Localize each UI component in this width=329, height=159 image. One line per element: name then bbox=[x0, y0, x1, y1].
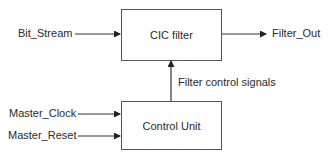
control-unit-label: Control Unit bbox=[142, 120, 200, 132]
cic-filter-label: CIC filter bbox=[150, 29, 193, 41]
master-reset-label: Master_Reset bbox=[8, 129, 76, 142]
cic-filter-block: CIC filter bbox=[121, 9, 222, 61]
control-unit-block: Control Unit bbox=[121, 101, 222, 150]
block-diagram: CIC filter Control Unit Bit_Stream Filte… bbox=[0, 0, 329, 159]
filter-out-label: Filter_Out bbox=[272, 27, 320, 40]
master-clock-label: Master_Clock bbox=[9, 107, 76, 120]
bit-stream-label: Bit_Stream bbox=[18, 27, 72, 40]
filter-control-signals-label: Filter control signals bbox=[178, 76, 276, 89]
